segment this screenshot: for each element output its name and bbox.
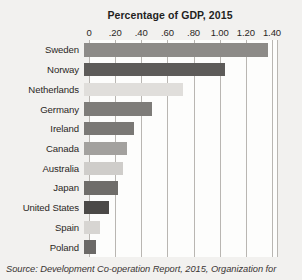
bar-australia (84, 162, 123, 175)
chart-row: United States (0, 198, 302, 218)
bar-track (84, 79, 273, 99)
chart-row: Canada (0, 139, 302, 159)
category-label-united-states: United States (0, 202, 84, 213)
bar-rows: SwedenNorwayNetherlandsGermanyIrelandCan… (0, 40, 302, 257)
category-label-japan: Japan (0, 182, 84, 193)
chart-row: Japan (0, 178, 302, 198)
bar-track (84, 60, 273, 80)
chart-row: Sweden (0, 40, 302, 60)
x-axis-tick-labels: 0.20.40.60.801.001.201.40 (89, 27, 272, 40)
bar-track (84, 139, 273, 159)
bar-track (84, 40, 273, 60)
bar-spain (84, 221, 100, 234)
x-tick-label: 1.40 (263, 27, 281, 38)
bar-poland (84, 240, 96, 253)
x-tick-label: 1.00 (211, 27, 229, 38)
chart-row: Netherlands (0, 79, 302, 99)
bar-track (84, 158, 273, 178)
bar-track (84, 99, 273, 119)
category-label-sweden: Sweden (0, 44, 84, 55)
x-tick-label: .60 (161, 27, 174, 38)
bar-canada (84, 142, 127, 155)
x-tick-label: .80 (187, 27, 200, 38)
bar-japan (84, 181, 118, 194)
bar-track (84, 237, 273, 257)
x-tick-label: .40 (135, 27, 148, 38)
x-tick-label: .20 (109, 27, 122, 38)
bar-netherlands (84, 83, 183, 96)
chart-figure: Percentage of GDP, 2015 0.20.40.60.801.0… (0, 0, 302, 280)
chart-title: Percentage of GDP, 2015 (0, 9, 302, 21)
bar-track (84, 178, 273, 198)
chart-row: Norway (0, 60, 302, 80)
bar-sweden (84, 43, 268, 56)
bar-norway (84, 63, 225, 76)
x-tick-label: 0 (86, 27, 91, 38)
category-label-germany: Germany (0, 104, 84, 115)
category-label-australia: Australia (0, 163, 84, 174)
bar-track (84, 218, 273, 238)
bar-ireland (84, 122, 134, 135)
chart-row: Poland (0, 237, 302, 257)
bar-germany (84, 102, 152, 115)
category-label-canada: Canada (0, 143, 84, 154)
chart-row: Germany (0, 99, 302, 119)
bar-united-states (84, 201, 109, 214)
category-label-netherlands: Netherlands (0, 84, 84, 95)
source-note: Source: Development Co-operation Report,… (6, 263, 298, 276)
chart-row: Ireland (0, 119, 302, 139)
category-label-poland: Poland (0, 242, 84, 253)
bar-track (84, 119, 273, 139)
bar-track (84, 198, 273, 218)
chart-row: Spain (0, 218, 302, 238)
x-tick-label: 1.20 (237, 27, 255, 38)
category-label-ireland: Ireland (0, 123, 84, 134)
category-label-norway: Norway (0, 64, 84, 75)
chart-row: Australia (0, 158, 302, 178)
category-label-spain: Spain (0, 222, 84, 233)
